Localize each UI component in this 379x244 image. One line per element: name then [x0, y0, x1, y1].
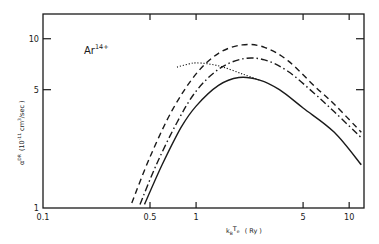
x-tick-label: 1 [194, 212, 199, 222]
tick-labels: 0.10.515101510 [29, 34, 355, 222]
series-solid-line [145, 77, 362, 204]
y-tick-label: 10 [29, 34, 39, 44]
axis-ticks [43, 14, 364, 208]
plot-frame [43, 14, 364, 208]
x-tick-label: 10 [344, 212, 354, 222]
series-dashed-line [132, 44, 361, 203]
y-axis-label: αDR(10-11cm3/sec ) [17, 100, 26, 165]
data-series [132, 44, 361, 204]
x-tick-label: 0.5 [144, 212, 157, 222]
chart: 0.10.515101510 Ar14+ kBTe( Ry ) αDR(10-1… [0, 0, 379, 244]
y-tick-label: 5 [34, 85, 39, 95]
x-tick-label: 5 [301, 212, 306, 222]
ion-annotation: Ar14+ [84, 43, 109, 56]
y-tick-label: 1 [34, 203, 39, 213]
x-axis-label: kBTe( Ry ) [226, 225, 262, 236]
series-dash-dot-line [140, 58, 361, 204]
x-tick-label: 0.1 [37, 212, 50, 222]
